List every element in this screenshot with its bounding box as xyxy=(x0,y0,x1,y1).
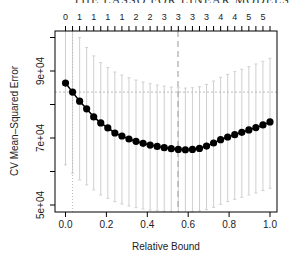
x-axis: 0.00.20.40.60.81.0 xyxy=(59,212,278,230)
top-tick-label: 5 xyxy=(260,12,265,22)
y-tick-label: 5e+04 xyxy=(35,191,46,220)
top-tick-label: 3 xyxy=(190,12,195,22)
data-point xyxy=(189,146,196,153)
x-axis-label: Relative Bound xyxy=(132,241,200,252)
plot-frame xyxy=(55,31,277,212)
data-point xyxy=(139,140,146,147)
top-tick-label: 0 xyxy=(63,12,68,22)
error-bars xyxy=(64,31,272,212)
data-point xyxy=(97,119,104,126)
data-point xyxy=(69,89,76,96)
x-tick-label: 0.8 xyxy=(222,219,236,230)
y-tick-label: 9e+04 xyxy=(35,57,46,86)
reference-lines xyxy=(55,31,277,212)
data-point xyxy=(125,135,132,142)
top-tick-label: 4 xyxy=(218,12,223,22)
data-point xyxy=(217,136,224,143)
data-point xyxy=(62,79,69,86)
top-tick-label: 1 xyxy=(105,12,110,22)
top-axis: 011112233334455 xyxy=(63,12,270,31)
top-tick-label: 3 xyxy=(162,12,167,22)
data-point xyxy=(224,133,231,140)
data-point xyxy=(83,105,90,112)
data-point xyxy=(132,138,139,145)
top-tick-label: 3 xyxy=(176,12,181,22)
top-tick-label: 1 xyxy=(77,12,82,22)
data-point xyxy=(203,142,210,149)
data-point xyxy=(147,141,154,148)
data-point xyxy=(111,129,118,136)
data-point xyxy=(161,144,168,151)
data-point xyxy=(245,126,252,133)
data-point xyxy=(76,98,83,105)
x-tick-label: 0.6 xyxy=(181,219,195,230)
data-point xyxy=(266,118,273,125)
top-tick-label: 3 xyxy=(204,12,209,22)
data-point xyxy=(259,121,266,128)
top-tick-label: 4 xyxy=(232,12,237,22)
data-point xyxy=(154,143,161,150)
top-tick-label: 2 xyxy=(134,12,139,22)
data-point xyxy=(231,131,238,138)
y-axis: 5e+047e+049e+04 xyxy=(35,38,55,220)
y-tick-label: 7e+04 xyxy=(35,124,46,153)
cv-mse-chart: 0.00.20.40.60.81.0 5e+047e+049e+04 01111… xyxy=(0,0,290,264)
x-tick-label: 0.0 xyxy=(59,219,73,230)
data-point xyxy=(196,145,203,152)
x-tick-label: 1.0 xyxy=(263,219,277,230)
data-point xyxy=(252,124,259,131)
y-axis-label: CV Mean–Squared Error xyxy=(9,65,20,176)
data-point xyxy=(175,146,182,153)
top-tick-label: 5 xyxy=(246,12,251,22)
data-point xyxy=(118,132,125,139)
data-point xyxy=(182,146,189,153)
data-point xyxy=(104,124,111,131)
data-point xyxy=(210,139,217,146)
x-tick-label: 0.4 xyxy=(140,219,154,230)
top-tick-label: 1 xyxy=(119,12,124,22)
data-point xyxy=(238,129,245,136)
top-tick-label: 1 xyxy=(91,12,96,22)
top-tick-label: 2 xyxy=(148,12,153,22)
data-point xyxy=(168,145,175,152)
data-point xyxy=(90,113,97,120)
x-tick-label: 0.2 xyxy=(99,219,113,230)
